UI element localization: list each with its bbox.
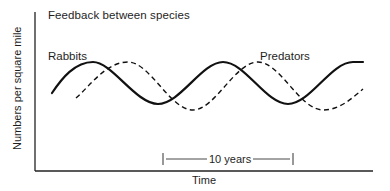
rabbits-label: Rabbits [48,50,87,62]
y-axis-label: Numbers per square mile [11,27,23,151]
chart-plot [0,0,390,191]
predators-label: Predators [260,50,310,62]
chart-canvas: Feedback between species Rabbits Predato… [0,0,390,191]
rabbits-curve [52,62,363,104]
chart-title: Feedback between species [48,9,190,21]
period-annotation: 10 years [207,153,253,165]
x-axis-label: Time [192,174,216,186]
predators-curve [76,62,363,110]
